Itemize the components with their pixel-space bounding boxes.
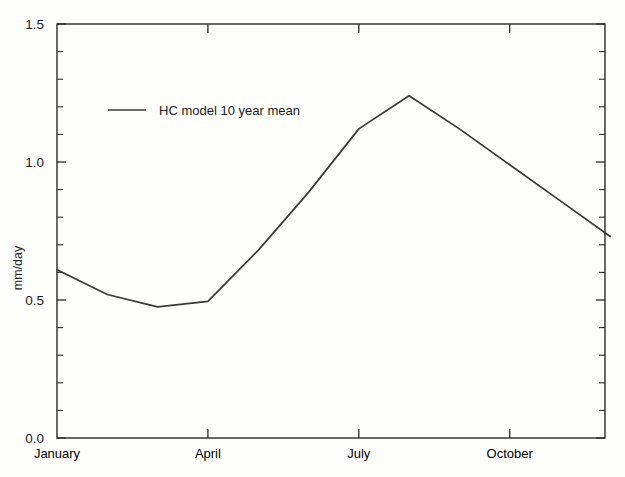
x-tick-label: October bbox=[487, 446, 534, 461]
x-tick-label: January bbox=[34, 446, 81, 461]
x-tick-label: April bbox=[195, 446, 221, 461]
legend: HC model 10 year mean bbox=[108, 103, 300, 118]
x-tick-label: July bbox=[347, 446, 371, 461]
data-series-line bbox=[57, 96, 610, 307]
plot-frame bbox=[57, 24, 605, 438]
y-axis-ticks bbox=[57, 24, 605, 438]
chart-page: 1.51.00.50.0 JanuaryAprilJulyOctober mm/… bbox=[0, 0, 625, 477]
y-tick-label: 1.5 bbox=[25, 17, 44, 32]
legend-entry-label: HC model 10 year mean bbox=[159, 103, 300, 118]
y-axis-title: mm/day bbox=[11, 245, 25, 290]
x-axis-tick-labels: JanuaryAprilJulyOctober bbox=[34, 446, 534, 461]
y-tick-label: 0.5 bbox=[25, 293, 44, 308]
y-tick-label: 0.0 bbox=[25, 431, 44, 446]
y-tick-label: 1.0 bbox=[25, 155, 44, 170]
y-axis-tick-labels: 1.51.00.50.0 bbox=[25, 17, 44, 446]
x-axis-ticks bbox=[208, 24, 510, 438]
line-chart: 1.51.00.50.0 JanuaryAprilJulyOctober mm/… bbox=[0, 0, 625, 477]
data-series-group bbox=[57, 96, 610, 307]
